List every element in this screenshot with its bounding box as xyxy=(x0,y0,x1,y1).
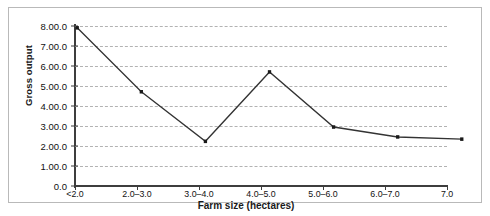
x-axis-tick-mark xyxy=(261,185,262,190)
x-axis-tick-label: 7.0 xyxy=(441,189,453,199)
gridline xyxy=(75,106,447,107)
chart-frame: Gross output 8.00.07.00.06.00.05.00.04.0… xyxy=(8,7,482,203)
y-axis-tick-label: 4.00.0 xyxy=(41,101,67,112)
gridline xyxy=(75,86,447,87)
y-axis-tick-label: 5.00.0 xyxy=(41,81,67,92)
y-axis-tick-mark xyxy=(71,146,78,147)
gridline xyxy=(75,166,447,167)
y-axis-tick-label: 6.00.0 xyxy=(41,61,67,72)
x-axis-tick-mark xyxy=(199,185,200,190)
y-axis-tick-label: 1.00.0 xyxy=(41,161,67,172)
gridline xyxy=(75,146,447,147)
y-axis-tick-label: 2.00.0 xyxy=(41,141,67,152)
x-axis-title: Farm size (hectares) xyxy=(9,200,483,211)
x-axis-tick-mark xyxy=(447,185,448,190)
y-axis-tick-mark xyxy=(71,26,78,27)
x-axis-tick-label: 3.0–4.0 xyxy=(184,189,213,199)
x-axis-tick-mark xyxy=(75,185,76,190)
x-axis-tick-label: 6.0–7.0 xyxy=(370,189,399,199)
chart-figure: Gross output 8.00.07.00.06.00.05.00.04.0… xyxy=(0,0,490,216)
x-axis-tick-label: 2.0–3.0 xyxy=(122,189,151,199)
x-axis-tick-mark xyxy=(385,185,386,190)
y-axis-tick-mark xyxy=(71,86,78,87)
gridline xyxy=(75,126,447,127)
x-axis-tick-mark xyxy=(323,185,324,190)
y-axis-title: Gross output xyxy=(23,21,34,131)
y-axis-tick-mark xyxy=(71,106,78,107)
plot-area xyxy=(75,26,447,186)
gridline xyxy=(75,26,447,27)
x-axis-tick-mark xyxy=(137,185,138,190)
data-point-marker xyxy=(460,137,463,141)
x-axis-tick-label: <2.0 xyxy=(66,189,83,199)
y-axis-tick-label: 8.00.0 xyxy=(41,21,67,32)
gridline xyxy=(75,66,447,67)
y-axis-tick-label: 7.00.0 xyxy=(41,41,67,52)
y-axis-tick-mark xyxy=(71,166,78,167)
y-axis-tick-mark xyxy=(71,46,78,47)
y-axis-tick-mark xyxy=(71,66,78,67)
y-axis-tick-mark xyxy=(71,126,78,127)
x-axis-tick-label: 4.0–5.0 xyxy=(246,189,275,199)
x-axis-tick-label: 5.0–6.0 xyxy=(308,189,337,199)
y-axis-tick-label: 3.00.0 xyxy=(41,121,67,132)
y-axis-tick-label: 0.0 xyxy=(54,181,67,192)
gridline xyxy=(75,46,447,47)
